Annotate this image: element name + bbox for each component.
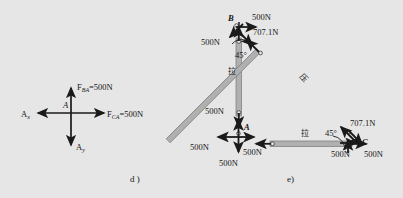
force-label-b-707: 707.1N bbox=[253, 28, 278, 37]
caption-panel-e: e) bbox=[287, 175, 294, 184]
force-arrow-c-diag-707 bbox=[341, 127, 357, 143]
force-label-ab-lower-500: 500N bbox=[205, 107, 224, 116]
member-end-pins bbox=[235, 24, 359, 146]
member-label-ac: 拉 bbox=[301, 130, 309, 138]
angle-label-b: 45° bbox=[235, 51, 247, 60]
force-label-c-707: 707.1N bbox=[350, 119, 375, 128]
joint-label-b: B bbox=[228, 14, 234, 23]
pin-ac-left bbox=[271, 142, 275, 146]
member-ac-body bbox=[270, 141, 352, 147]
force-value-fba: =500N bbox=[89, 82, 113, 92]
force-label-a-down-500: 500N bbox=[219, 159, 238, 168]
joint-label-a-panel-e: A bbox=[244, 123, 250, 132]
figure-vector-layer bbox=[0, 0, 403, 198]
force-label-c-left-500: 500N bbox=[331, 150, 350, 159]
force-label-ax: Ax bbox=[21, 110, 30, 120]
force-label-fba: FBA=500N bbox=[77, 83, 113, 93]
force-label-b-left-500: 500N bbox=[201, 38, 220, 47]
force-label-fca: FCA=500N bbox=[107, 110, 143, 120]
angle-label-c: 45° bbox=[325, 129, 337, 138]
panel-d-axes bbox=[38, 88, 104, 145]
force-label-a-left-500: 500N bbox=[190, 143, 209, 152]
force-label-c-right-500: 500N bbox=[364, 150, 383, 159]
joint-label-c: C bbox=[362, 138, 368, 147]
force-label-ay: Ay bbox=[76, 143, 85, 153]
force-subscript-ay: y bbox=[82, 147, 85, 153]
force-label-b-right-500: 500N bbox=[252, 13, 271, 22]
force-subscript-ax: x bbox=[27, 114, 30, 120]
force-subscript-fba: BA bbox=[82, 87, 89, 93]
joint-label-a-panel-d: A bbox=[63, 101, 68, 110]
force-value-fca: =500N bbox=[119, 109, 143, 119]
member-label-ab: 拉 bbox=[228, 68, 236, 76]
force-arrow-bc-top bbox=[247, 40, 259, 52]
force-label-a-right-500: 500N bbox=[243, 148, 262, 157]
figure-root: A FBA=500N FCA=500N Ax Ay d ) B A C 500N… bbox=[0, 0, 403, 198]
caption-panel-d: d ) bbox=[130, 175, 140, 184]
